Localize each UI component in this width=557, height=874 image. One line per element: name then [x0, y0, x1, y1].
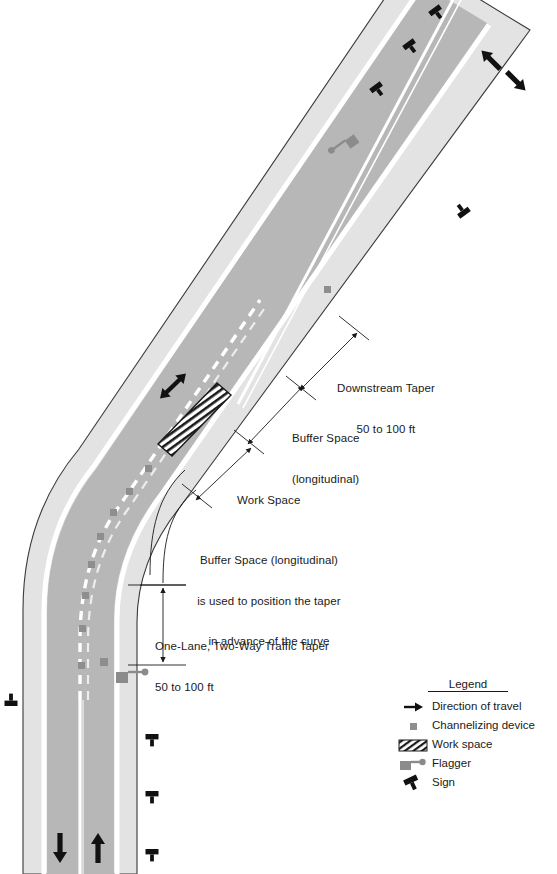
sign-right-2 [146, 734, 159, 746]
sign-right-1 [453, 201, 471, 219]
sign-right-4 [146, 849, 159, 861]
arrow-up-upper-right-lane [502, 67, 530, 95]
center-line-solid [80, 700, 83, 874]
channelizing-device-icon [398, 717, 428, 735]
legend-row-direction-of-travel: Direction of travel [398, 698, 548, 716]
diagram-canvas: Downstream Taper 50 to 100 ft Buffer Spa… [0, 0, 557, 874]
annotation-one-lane-two-way-taper: One-Lane, Two-Way Traffic Taper 50 to 10… [155, 613, 329, 721]
legend-label-flagger: Flagger [432, 757, 471, 769]
legend-row-sign: Sign [398, 774, 548, 792]
legend-row-flagger: Flagger [398, 755, 548, 773]
sign-right-3 [146, 791, 159, 803]
direction-arrow-icon [398, 698, 428, 716]
legend-row-work-space: Work space [398, 736, 548, 754]
legend-label-work-space: Work space [432, 738, 493, 750]
sign-icon [398, 774, 428, 792]
sign-left-1 [5, 694, 18, 706]
legend-label-direction-of-travel: Direction of travel [432, 700, 521, 712]
work-space-hatch-icon [398, 736, 428, 754]
legend: Legend Direction of travel Channelizing … [398, 678, 548, 790]
legend-label-sign: Sign [432, 776, 455, 788]
flagger-icon [398, 755, 428, 773]
legend-row-channelizing-device: Channelizing device [398, 717, 548, 735]
annotation-work-space: Work Space [237, 467, 300, 535]
annotation-buffer-space: Buffer Space (longitudinal) [292, 405, 359, 513]
legend-title: Legend [428, 678, 508, 692]
legend-label-channelizing-device: Channelizing device [432, 719, 535, 731]
